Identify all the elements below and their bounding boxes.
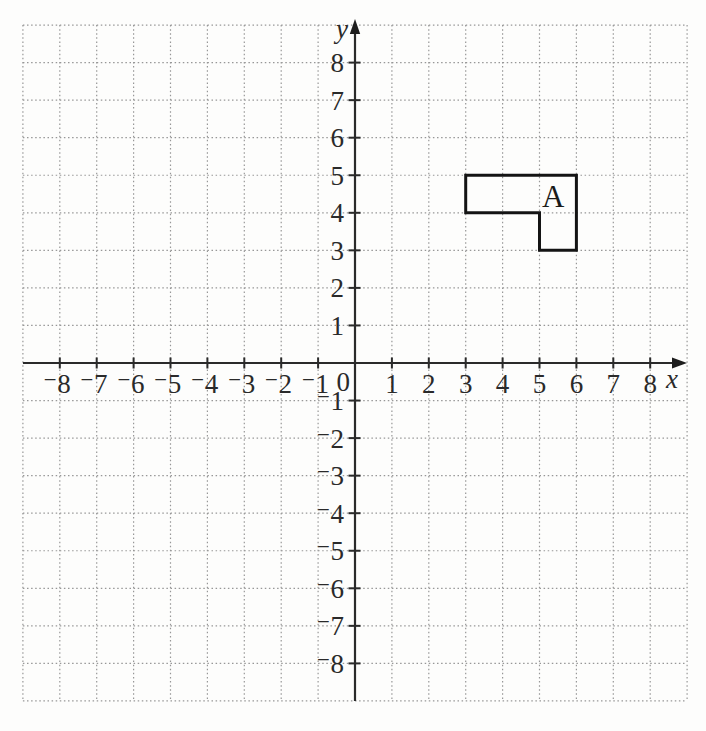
x-tick-label: 8: [643, 369, 657, 399]
x-tick-label: ⁻3: [227, 369, 255, 399]
x-tick-label: ⁻8: [43, 369, 71, 399]
shape-A-label: A: [542, 179, 565, 214]
x-tick-label: 4: [496, 369, 510, 399]
y-tick-label: ⁻7: [316, 611, 344, 641]
y-tick-label: 8: [331, 48, 345, 78]
y-tick-label: ⁻3: [316, 461, 344, 491]
y-tick-label: 1: [331, 311, 345, 341]
x-tick-label: 5: [533, 369, 547, 399]
y-tick-label: 3: [331, 236, 345, 266]
y-tick-label: ⁻5: [316, 536, 344, 566]
x-tick-label: ⁻2: [264, 369, 292, 399]
y-tick-label: ⁻4: [316, 499, 344, 529]
x-tick-label: 7: [607, 369, 621, 399]
y-tick-label: ⁻6: [316, 574, 344, 604]
origin-label: 0: [337, 367, 351, 397]
y-axis-label: y: [333, 14, 348, 44]
y-axis-arrowhead: [350, 19, 360, 34]
x-tick-label: ⁻4: [191, 369, 219, 399]
y-tick-label: 2: [331, 273, 345, 303]
y-tick-label: ⁻8: [316, 649, 344, 679]
x-tick-label: 6: [570, 369, 584, 399]
x-tick-label: ⁻5: [154, 369, 182, 399]
x-tick-label: 3: [459, 369, 473, 399]
x-tick-label: 2: [422, 369, 436, 399]
y-tick-label: 6: [331, 123, 345, 153]
x-tick-label: ⁻7: [80, 369, 108, 399]
y-tick-label: 5: [331, 161, 345, 191]
coordinate-plane: ⁻8⁻7⁻6⁻5⁻4⁻3⁻2⁻112345678 ⁻8⁻7⁻6⁻5⁻4⁻3⁻2⁻…: [0, 0, 706, 731]
y-tick-label: 7: [331, 86, 345, 116]
axes: [23, 19, 687, 701]
y-tick-label: ⁻2: [316, 424, 344, 454]
x-axis-label: x: [665, 364, 678, 394]
shape-group: A: [466, 175, 577, 250]
x-tick-label: ⁻6: [117, 369, 145, 399]
coordinate-grid-figure: ⁻8⁻7⁻6⁻5⁻4⁻3⁻2⁻112345678 ⁻8⁻7⁻6⁻5⁻4⁻3⁻2⁻…: [0, 0, 706, 731]
x-tick-label: 1: [385, 369, 399, 399]
y-tick-label: 4: [331, 198, 345, 228]
